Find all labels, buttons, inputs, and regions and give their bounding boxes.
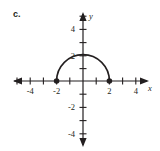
y-tick-label-neg4: -4 xyxy=(68,129,76,139)
figure-panel: c. xyxy=(0,0,160,151)
coordinate-plane-graph: -4 -2 2 4 4 2 -2 -4 x y xyxy=(0,0,160,151)
x-tick-label-pos2: 2 xyxy=(107,86,111,96)
x-tick-label-neg4: -4 xyxy=(27,86,35,96)
y-tick-label-pos4: 4 xyxy=(71,24,76,34)
endpoint-dot-left xyxy=(54,78,60,84)
x-axis-label: x xyxy=(147,83,152,93)
y-tick-label-pos2: 2 xyxy=(71,51,75,61)
x-tick-label-neg2: -2 xyxy=(53,86,60,96)
x-tick-label-pos4: 4 xyxy=(134,86,139,96)
y-axis-label: y xyxy=(88,11,93,21)
y-axis-down-arrow-icon xyxy=(79,138,86,147)
endpoint-dot-right xyxy=(107,78,113,84)
y-tick-label-neg2: -2 xyxy=(68,102,75,112)
